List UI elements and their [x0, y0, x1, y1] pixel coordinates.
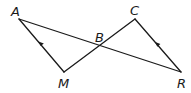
segment-MC: [64, 19, 135, 72]
point-label-M: M: [58, 76, 69, 91]
point-label-R: R: [177, 76, 186, 91]
geometry-diagram: A B C M R: [0, 0, 191, 93]
point-label-B: B: [95, 30, 104, 45]
point-label-A: A: [10, 4, 20, 19]
point-label-C: C: [130, 3, 140, 18]
parallel-arrow-icon: [155, 42, 160, 47]
